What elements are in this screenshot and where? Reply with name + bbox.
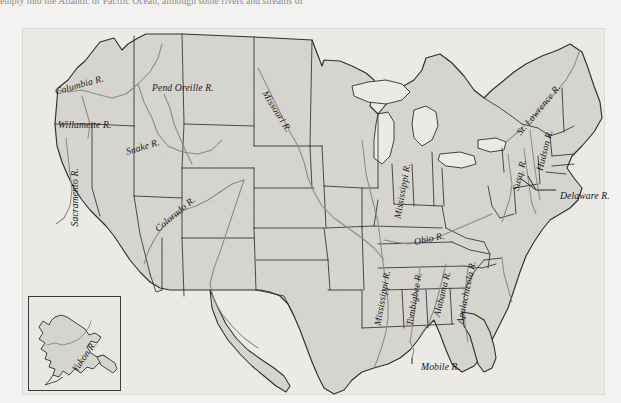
clipped-body-text: empty into the Atlantic or Pacific Ocean… — [0, 0, 621, 8]
texas-gulf-coast — [210, 290, 290, 392]
alaska-panhandle — [97, 355, 117, 373]
alaska-landmass — [39, 315, 109, 377]
alaska-aleutians — [45, 375, 63, 385]
alaska-inset-svg — [29, 297, 120, 390]
alaska-inset-box — [28, 296, 121, 391]
scanned-page: empty into the Atlantic or Pacific Ocean… — [0, 0, 621, 403]
map-figure-panel: Columbia R.Willamette R.Pend Oreille R.S… — [22, 28, 605, 395]
